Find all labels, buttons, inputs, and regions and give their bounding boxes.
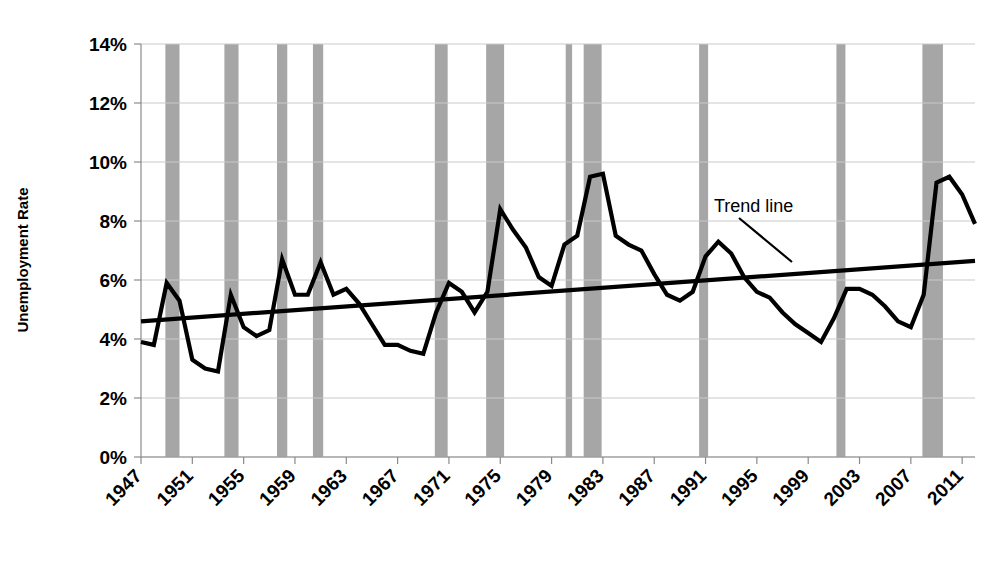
- recession-band: [699, 44, 708, 457]
- recession-band: [922, 44, 943, 457]
- unemployment-rate-chart: 0%2%4%6%8%10%12%14% 19471951195519591963…: [0, 0, 1002, 563]
- y-tick-label: 10%: [89, 152, 127, 173]
- recession-band: [224, 44, 238, 457]
- y-tick-label: 12%: [89, 93, 127, 114]
- recession-band: [566, 44, 572, 457]
- y-tick-label: 0%: [100, 447, 128, 468]
- recession-band: [165, 44, 179, 457]
- y-tick-label: 6%: [100, 270, 128, 291]
- y-tick-label: 8%: [100, 211, 128, 232]
- recession-band: [435, 44, 448, 457]
- recession-band: [277, 44, 287, 457]
- y-axis-title-group: Unemployment Rate: [14, 187, 31, 332]
- recession-band: [836, 44, 845, 457]
- y-tick-label: 14%: [89, 34, 127, 55]
- y-tick-label: 2%: [100, 388, 128, 409]
- chart-canvas: 0%2%4%6%8%10%12%14% 19471951195519591963…: [0, 0, 1002, 563]
- y-tick-label: 4%: [100, 329, 128, 350]
- y-axis-title: Unemployment Rate: [14, 187, 31, 332]
- recession-band: [584, 44, 602, 457]
- trend-line-label: Trend line: [714, 196, 793, 216]
- recession-band: [313, 44, 323, 457]
